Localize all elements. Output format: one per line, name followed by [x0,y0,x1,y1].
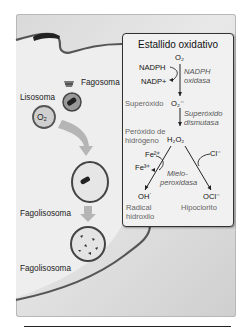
superoxide-label: Superóxido [125,100,163,108]
fe3-label: Fe³⁺ [135,164,150,172]
enzyme-mpo-1: Mielo- [167,170,188,178]
enzyme-nadph-oxidase-2: oxidasa [184,77,210,85]
enzyme-sod-1: Superóxido [184,110,222,118]
lysosome-label: Lisosoma [20,94,55,102]
nadph-label: NADPH [139,64,166,72]
oxidative-burst-panel: Estallido oxidativo O₂ NADPH NADP+ NADPH… [122,33,234,227]
hydroxyl-formula: OH˙ [138,193,152,201]
peroxide-formula: H₂O₂ [167,136,184,144]
enzyme-mpo-2: peroxidasa [160,179,197,187]
cell-cytoplasm [16,34,122,298]
phagolysosome-1-icon [72,162,108,202]
phagolysosome-label-2: Fagolisosoma [20,265,71,273]
peroxide-label-1: Peróxido de [125,128,166,136]
chloride-label: Cl⁻ [210,150,221,158]
hypochlorite-label: Hipoclorito [181,204,217,212]
hypochlorite-formula: OCl⁻ [203,193,220,201]
hydroxyl-label-2: hidroxilo [126,213,154,221]
o2-reactant: O₂ [175,54,184,62]
peroxide-label-2: hidrógeno [125,137,159,145]
lysosome-content: O₂ [37,113,47,122]
nadp-label: NADP+ [141,78,167,86]
phagolysosome-label-1: Fagolisosoma [20,210,71,218]
superoxide-formula: O₂⁻ [171,100,184,108]
hydroxyl-label-1: Radical [126,204,151,212]
phagosome-label: Fagosoma [81,79,120,87]
divider-rule [24,326,231,327]
phagolysosome-2-icon [71,227,105,261]
fe2-label: Fe²⁺ [145,151,160,159]
enzyme-sod-2: dismutasa [184,119,219,127]
enzyme-nadph-oxidase-1: NADPH [184,68,211,76]
